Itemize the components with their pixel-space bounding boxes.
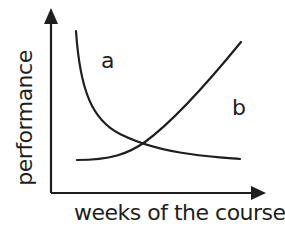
curve-b-label: b xyxy=(232,95,246,120)
y-axis-label: performance xyxy=(12,50,37,185)
x-axis-label: weeks of the course xyxy=(74,200,285,225)
curve-a-label: a xyxy=(101,48,114,73)
x-axis-arrow-icon xyxy=(251,186,266,200)
y-axis-arrow-icon xyxy=(44,8,58,24)
